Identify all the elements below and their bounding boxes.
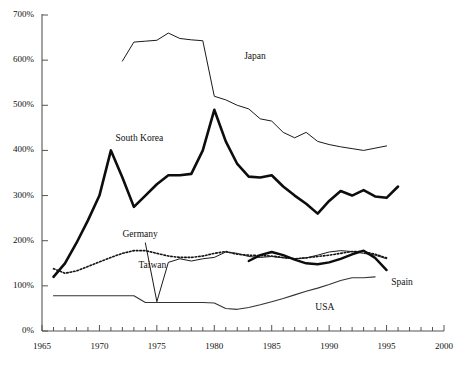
- x-axis-tick-label: 1975: [137, 341, 177, 351]
- series-annotation-south-korea: South Korea: [116, 133, 164, 143]
- y-axis-tick-label: 0%: [0, 325, 34, 335]
- x-axis-tick-label: 1980: [194, 341, 234, 351]
- y-axis-tick-label: 100%: [0, 280, 34, 290]
- y-axis-tick-label: 700%: [0, 9, 34, 19]
- series-line-germany: [53, 251, 386, 274]
- chart-plot-area: [0, 0, 467, 370]
- y-axis-tick-label: 400%: [0, 144, 34, 154]
- x-axis-tick-label: 1965: [22, 341, 62, 351]
- series-annotation-taiwan: Taiwan: [138, 260, 166, 270]
- series-annotation-germany: Germany: [122, 229, 157, 239]
- y-axis-tick-label: 500%: [0, 99, 34, 109]
- series-line-taiwan: [145, 243, 386, 302]
- x-axis-tick-label: 1985: [252, 341, 292, 351]
- series-annotation-usa: USA: [315, 302, 334, 312]
- x-axis-tick-label: 1990: [309, 341, 349, 351]
- series-annotation-japan: Japan: [244, 51, 266, 61]
- series-annotation-spain: Spain: [391, 277, 413, 287]
- y-axis-tick-label: 600%: [0, 54, 34, 64]
- y-axis-tick-label: 200%: [0, 235, 34, 245]
- chart-container: 0%100%200%300%400%500%600%700%1965197019…: [0, 0, 467, 370]
- x-axis-tick-label: 2000: [424, 341, 464, 351]
- x-axis-tick-label: 1995: [367, 341, 407, 351]
- y-axis-tick-label: 300%: [0, 190, 34, 200]
- x-axis-tick-label: 1970: [79, 341, 119, 351]
